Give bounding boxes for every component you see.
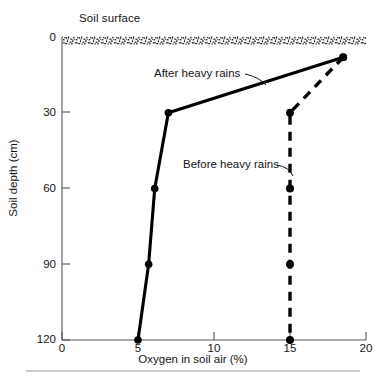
y-tick-label: 0 xyxy=(22,31,56,43)
x-axis-title: Oxygen in soil air (%) xyxy=(0,353,386,365)
series-markers-before-heavy-rains xyxy=(286,53,347,344)
data-point-marker xyxy=(151,185,159,193)
y-tick-label: 90 xyxy=(22,258,56,270)
x-tick-label: 0 xyxy=(47,342,77,354)
data-point-marker xyxy=(339,53,347,61)
annotation-before-heavy-rains: Before heavy rains xyxy=(183,158,279,170)
data-point-marker xyxy=(286,185,294,193)
y-tick-marks xyxy=(62,37,70,340)
soil-surface-label: Soil surface xyxy=(79,12,140,24)
annotation-after-heavy-rains: After heavy rains xyxy=(154,67,240,79)
x-tick-label: 5 xyxy=(123,342,153,354)
data-point-marker xyxy=(145,260,153,268)
x-tick-label: 10 xyxy=(199,342,229,354)
y-tick-label: 30 xyxy=(22,106,56,118)
y-axis-title: Soil depth (cm) xyxy=(7,118,19,238)
series-line-before-heavy-rains xyxy=(290,57,343,340)
soil-oxygen-depth-figure: Soil surface After heavy rains Before he… xyxy=(0,0,386,382)
x-tick-marks xyxy=(62,332,366,340)
data-point-marker xyxy=(286,260,294,268)
series-markers-after-heavy-rains xyxy=(134,53,347,343)
y-tick-label: 60 xyxy=(22,182,56,194)
plot-canvas xyxy=(0,0,386,382)
x-tick-label: 15 xyxy=(275,342,305,354)
x-tick-label: 20 xyxy=(351,342,381,354)
data-point-marker xyxy=(286,109,294,117)
soil-surface-texture-band xyxy=(63,36,366,45)
series-line-after-heavy-rains xyxy=(138,57,343,340)
data-point-marker xyxy=(165,109,173,117)
